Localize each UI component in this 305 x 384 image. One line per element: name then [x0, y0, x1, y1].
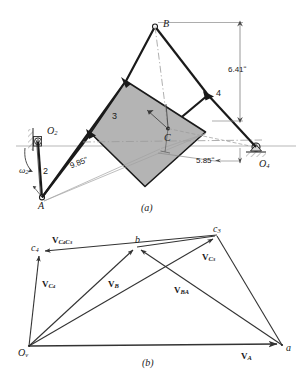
- point-label-a: A: [38, 201, 44, 211]
- vector-label-vba: VBA: [174, 286, 189, 296]
- vector-label-va: VA: [241, 352, 252, 362]
- link-label-2: 2: [43, 167, 48, 176]
- point-label-b: B: [163, 19, 169, 29]
- ground-support-o4: [246, 143, 266, 157]
- point-label-o2: O2: [47, 126, 57, 137]
- dimension-label-585: 5.85ʺ: [196, 157, 214, 165]
- point-label-c4-vel: c4: [31, 243, 39, 254]
- figure-drawing: [0, 0, 305, 384]
- vector-label-vc4c3: VC4C3: [52, 236, 72, 246]
- vector-label-vb: VB: [108, 280, 119, 290]
- velocity-polygon-drawing: [28, 235, 283, 347]
- dimension-label-641: 6.41ʺ: [228, 66, 246, 74]
- caption-a: (a): [141, 203, 153, 213]
- point-label-c3-vel: c3: [213, 224, 221, 235]
- link-3-shaded-plate: [91, 81, 206, 187]
- caption-b: (b): [142, 358, 154, 368]
- vector-label-vc4: VC4: [42, 280, 55, 290]
- point-label-o4: O4: [259, 159, 269, 170]
- link-label-3: 3: [112, 112, 117, 121]
- omega2-label: ω2: [19, 166, 29, 176]
- vector-label-vc3: VC3: [202, 253, 215, 263]
- point-label-b-vel: b: [135, 235, 140, 245]
- point-label-c: C: [164, 133, 171, 143]
- figure-canvas: O2 O4 A B C 2 3 4 ω2 6.41ʺ 9.85ʺ 5.85ʺ (…: [0, 0, 305, 384]
- point-label-a-vel: a: [286, 343, 291, 353]
- link-4-rocker: [203, 91, 256, 147]
- point-label-ov: Ov: [18, 348, 28, 359]
- link-label-4: 4: [216, 89, 221, 98]
